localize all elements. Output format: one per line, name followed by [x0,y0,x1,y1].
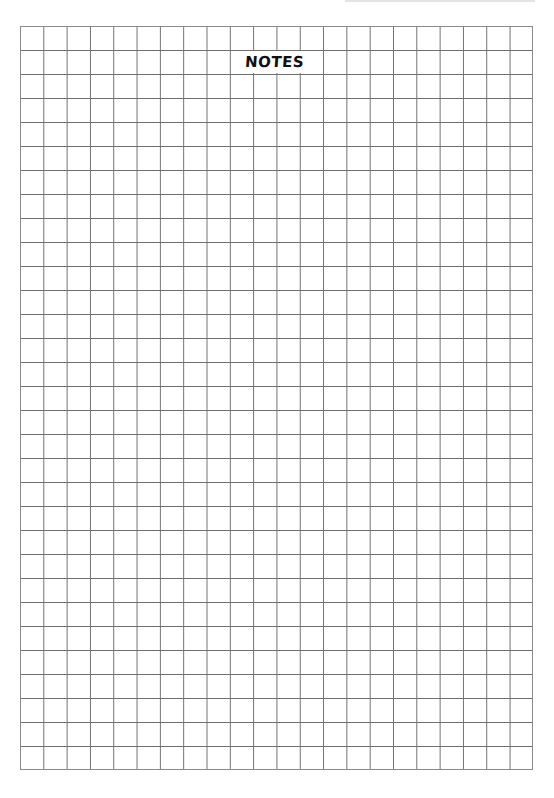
title-area: NOTES [238,51,312,73]
page-title: NOTES [245,53,305,71]
graph-paper-grid [20,26,533,770]
cropped-header-fragment [345,0,535,2]
